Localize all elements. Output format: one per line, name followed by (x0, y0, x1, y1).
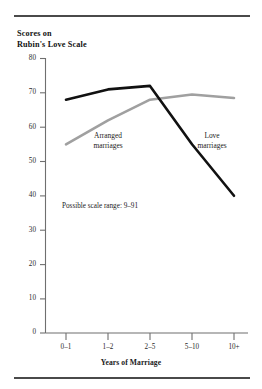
series-label-love: Love marriages (186, 131, 238, 150)
plot-area (0, 0, 262, 389)
y-tick-10: 10 (10, 294, 36, 302)
figure-container: Scores on Rubin's Love Scale 80 70 60 5 (0, 0, 262, 389)
y-axis (40, 58, 46, 333)
y-tick-30: 30 (10, 226, 36, 234)
x-tick-0-1: 0–1 (46, 343, 86, 351)
x-tick-1-2: 1–2 (88, 343, 128, 351)
x-axis-title: Years of Marriage (0, 358, 262, 367)
y-tick-0: 0 (10, 328, 36, 336)
y-tick-60: 60 (10, 123, 36, 131)
x-tick-2-5: 2–5 (130, 343, 170, 351)
x-tick-10-plus: 10+ (214, 343, 254, 351)
y-tick-40: 40 (10, 191, 36, 199)
x-tick-5-10: 5–10 (172, 343, 212, 351)
series-label-arranged: Arranged marriages (79, 131, 137, 150)
scale-range-note: Possible scale range: 9–91 (62, 202, 138, 210)
y-tick-70: 70 (10, 88, 36, 96)
x-axis (46, 333, 249, 340)
y-tick-20: 20 (10, 260, 36, 268)
y-tick-80: 80 (10, 54, 36, 62)
y-tick-50: 50 (10, 157, 36, 165)
